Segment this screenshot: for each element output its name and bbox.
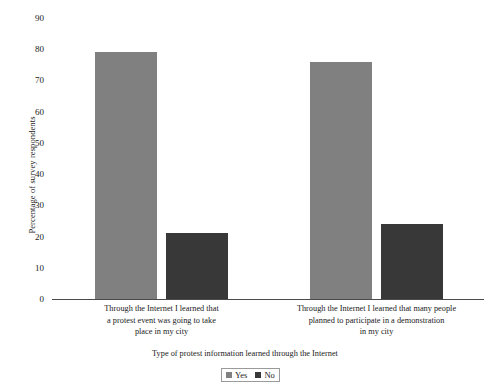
legend-item-no[interactable]: No <box>255 371 274 380</box>
legend-swatch-yes-icon <box>226 372 232 378</box>
x-axis-category-labels: Through the Internet I learned thata pro… <box>54 303 486 345</box>
chart-legend: YesNo <box>221 368 280 382</box>
y-axis-tick-20: 20 <box>35 232 44 241</box>
y-axis-tick-labels: 0102030405060708090 <box>0 18 48 300</box>
y-axis-tick-90: 90 <box>35 14 44 23</box>
category-label-line: a protest event was going to take <box>50 315 273 327</box>
y-axis-tick-80: 80 <box>35 45 44 54</box>
x-axis-category-label-1: Through the Internet I learned thata pro… <box>50 303 273 338</box>
legend-label-no: No <box>264 371 274 380</box>
legend-label-yes: Yes <box>235 371 247 380</box>
bar-no-group-1 <box>166 233 228 299</box>
x-axis-category-label-2: Through the Internet I learned that many… <box>265 303 488 338</box>
category-label-line: Through the Internet I learned that many… <box>265 303 488 315</box>
y-axis-tick-40: 40 <box>35 170 44 179</box>
y-axis-tick-50: 50 <box>35 138 44 147</box>
legend-swatch-no-icon <box>255 372 261 378</box>
category-label-line: Through the Internet I learned that <box>50 303 273 315</box>
y-axis-tick-60: 60 <box>35 107 44 116</box>
y-axis-tick-0: 0 <box>40 295 45 304</box>
legend-item-yes[interactable]: Yes <box>226 371 247 380</box>
y-axis-tick-10: 10 <box>35 263 44 272</box>
category-label-line: planned to participate in a demonstratio… <box>265 315 488 327</box>
category-label-line: place in my city <box>50 326 273 338</box>
bars-layer <box>54 18 484 299</box>
y-axis-tick-30: 30 <box>35 201 44 210</box>
bar-no-group-2 <box>381 224 443 299</box>
bar-yes-group-1 <box>95 52 157 299</box>
x-axis-line <box>52 299 484 300</box>
y-axis-tick-70: 70 <box>35 76 44 85</box>
bar-chart: Percentage of survey respondents 0102030… <box>0 0 490 385</box>
category-label-line: in my city <box>265 326 488 338</box>
bar-yes-group-2 <box>310 62 372 299</box>
x-axis-title: Type of protest information learned thro… <box>0 349 490 358</box>
